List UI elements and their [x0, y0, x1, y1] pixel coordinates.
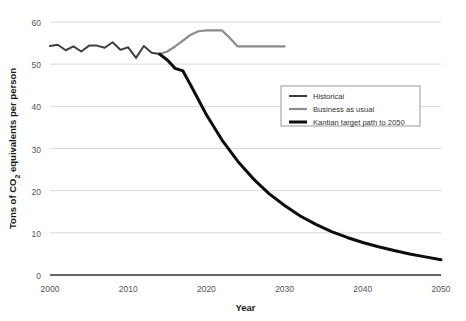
x-tick-label-2030: 2030 — [275, 284, 294, 294]
legend-label-0: Historical — [313, 92, 345, 101]
x-tick-label-2020: 2020 — [197, 284, 216, 294]
y-tick-labels: 0102030405060 — [32, 18, 42, 281]
legend-label-2: Kantian target path to 2050 — [313, 118, 405, 127]
chart-figure: 0102030405060200020102020203020402050Yea… — [0, 0, 466, 321]
series-line-business-as-usual — [159, 30, 284, 54]
y-tick-label-30: 30 — [32, 145, 42, 155]
legend: HistoricalBusiness as usualKantian targe… — [281, 86, 420, 127]
series-line-kantian-target-path-to-2050 — [159, 54, 441, 260]
y-axis-title: Tons of CO2 equivalents per person — [7, 68, 21, 229]
x-tick-label-2040: 2040 — [353, 284, 372, 294]
y-tick-label-40: 40 — [32, 102, 42, 112]
y-tick-label-60: 60 — [32, 18, 42, 28]
emissions-line-chart: 0102030405060200020102020203020402050Yea… — [0, 0, 466, 321]
series-line-historical — [50, 42, 159, 58]
gridlines — [50, 22, 441, 233]
data-series — [50, 30, 441, 259]
x-tick-label-2010: 2010 — [119, 284, 138, 294]
y-tick-label-20: 20 — [32, 187, 42, 197]
legend-label-1: Business as usual — [313, 105, 375, 114]
y-tick-label-50: 50 — [32, 60, 42, 70]
x-tick-label-2000: 2000 — [41, 284, 60, 294]
y-tick-label-10: 10 — [32, 229, 42, 239]
x-axis-title: Year — [235, 302, 255, 313]
x-tick-labels: 200020102020203020402050 — [41, 284, 451, 294]
y-tick-label-0: 0 — [36, 271, 41, 281]
x-tick-label-2050: 2050 — [432, 284, 451, 294]
